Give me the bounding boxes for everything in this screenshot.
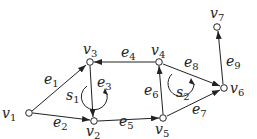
label-s1: s1 — [66, 88, 80, 105]
label-e8: e8 — [184, 55, 199, 72]
label-e2: e2 — [53, 115, 68, 132]
label-v2: v2 — [86, 124, 100, 139]
node-v1 — [26, 110, 33, 117]
edge-e9 — [218, 31, 223, 84]
label-e5: e5 — [119, 114, 134, 131]
label-v3: v3 — [83, 42, 97, 59]
label-e9: e9 — [226, 54, 241, 71]
label-v5: v5 — [155, 122, 169, 139]
label-v1: v1 — [2, 106, 16, 123]
label-e7: e7 — [192, 102, 207, 119]
edge-e6 — [159, 66, 163, 114]
node-v3 — [87, 59, 94, 66]
label-e1: e1 — [44, 72, 59, 89]
node-v7 — [214, 24, 221, 31]
label-s2: s2 — [176, 85, 190, 102]
node-v6 — [221, 85, 228, 92]
label-e6: e6 — [144, 83, 159, 100]
label-v7: v7 — [210, 6, 224, 23]
label-e4: e4 — [121, 45, 136, 62]
label-e3: e3 — [97, 75, 112, 92]
label-v4: v4 — [151, 43, 165, 60]
label-v6: v6 — [230, 81, 244, 98]
